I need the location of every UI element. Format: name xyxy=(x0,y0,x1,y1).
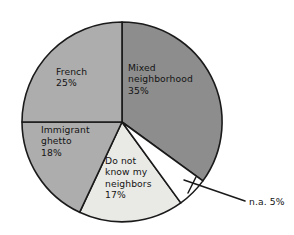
pie-label-mixed: Mixed neighborhood 35% xyxy=(128,62,193,96)
pie-chart: Mixed neighborhood 35% French 25% Immigr… xyxy=(0,0,294,235)
pie-label-french: French 25% xyxy=(56,66,87,89)
pie-label-immigrant: Immigrant ghetto 18% xyxy=(41,124,90,158)
pie-label-dontknow: Do not know my neighbors 17% xyxy=(105,155,152,201)
pie-label-na: n.a. 5% xyxy=(249,196,285,207)
